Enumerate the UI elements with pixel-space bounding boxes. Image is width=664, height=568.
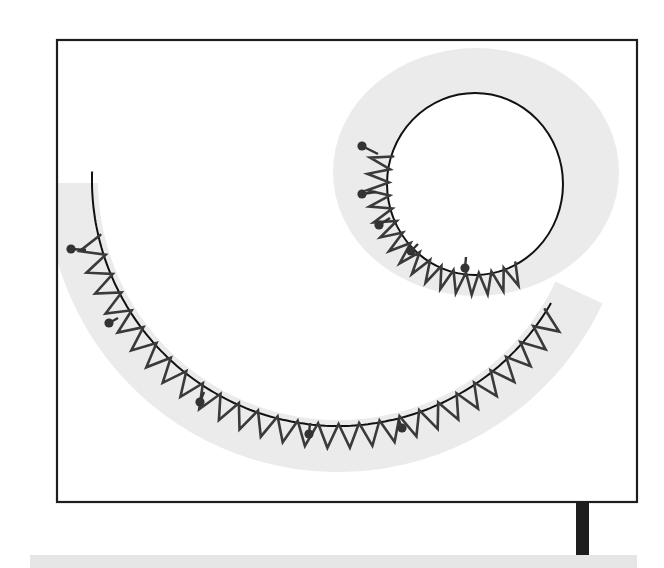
- pin-dot: [357, 189, 366, 198]
- pin-dot: [397, 423, 406, 432]
- pin-dot: [357, 141, 366, 150]
- pin-dot: [374, 220, 383, 229]
- stitch-diagram: [0, 0, 664, 568]
- pin-dot: [304, 429, 313, 438]
- pin-dot: [66, 244, 75, 253]
- pin-dot: [460, 263, 469, 272]
- pin-dot: [104, 318, 113, 327]
- pin-dot: [195, 397, 204, 406]
- stand-post: [576, 503, 589, 555]
- base-strip: [30, 555, 637, 568]
- pin-dot: [406, 246, 415, 255]
